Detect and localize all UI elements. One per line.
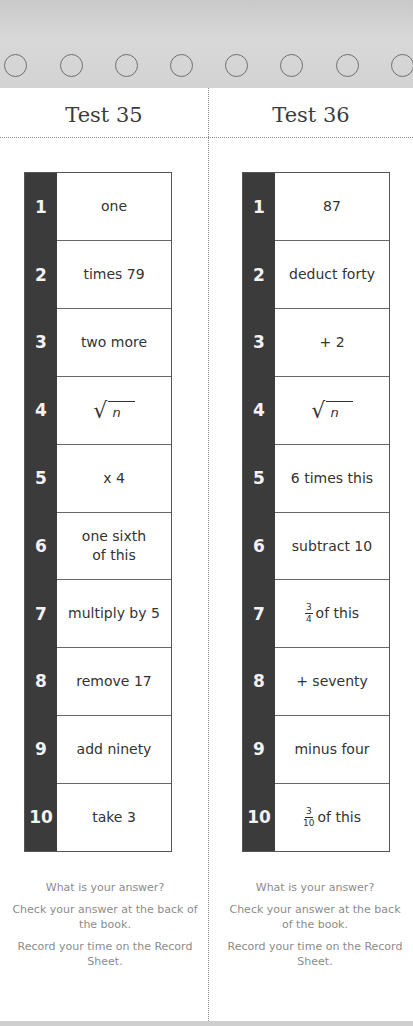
step-instruction-column: one times 79 two more √ n x 4 one sixth … bbox=[57, 173, 171, 851]
fraction-numerator: 3 bbox=[305, 807, 313, 818]
step-number: 3 bbox=[25, 309, 57, 377]
fraction-suffix: of this bbox=[317, 808, 361, 827]
step-number: 4 bbox=[243, 376, 275, 444]
step-instruction: subtract 10 bbox=[275, 512, 389, 580]
step-number: 1 bbox=[25, 173, 57, 241]
column-divider bbox=[208, 88, 209, 1021]
step-instruction: one bbox=[57, 173, 171, 240]
step-number: 4 bbox=[25, 376, 57, 444]
radicand: n bbox=[108, 401, 134, 422]
step-instruction: x 4 bbox=[57, 444, 171, 512]
step-instruction: add ninety bbox=[57, 715, 171, 783]
record-time-note: Record your time on the Record Sheet. bbox=[10, 939, 200, 969]
step-instruction: + 2 bbox=[275, 308, 389, 376]
punch-hole-icon bbox=[170, 54, 193, 77]
step-number: 10 bbox=[243, 783, 275, 851]
radical-sign-icon: √ bbox=[311, 400, 325, 422]
step-number: 5 bbox=[25, 444, 57, 512]
answer-prompt: What is your answer? bbox=[10, 880, 200, 895]
punch-hole-icon bbox=[60, 54, 83, 77]
step-number: 8 bbox=[25, 648, 57, 716]
step-instruction-line: of this bbox=[82, 546, 146, 565]
step-number: 6 bbox=[243, 512, 275, 580]
punch-hole-icon bbox=[4, 54, 27, 77]
test-35-footer: What is your answer? Check your answer a… bbox=[10, 880, 200, 976]
square-root-expression: √ n bbox=[93, 398, 134, 422]
step-instruction: multiply by 5 bbox=[57, 579, 171, 647]
step-instruction-line: one sixth bbox=[82, 527, 146, 546]
fraction: 3 4 bbox=[305, 603, 313, 624]
fraction-numerator: 3 bbox=[305, 603, 313, 614]
test-36-card: 1 2 3 4 5 6 7 8 9 10 87 deduct forty + 2… bbox=[242, 172, 390, 852]
step-number: 2 bbox=[25, 241, 57, 309]
step-instruction: times 79 bbox=[57, 240, 171, 308]
step-instruction: + seventy bbox=[275, 647, 389, 715]
step-number: 6 bbox=[25, 512, 57, 580]
step-number: 9 bbox=[243, 715, 275, 783]
punch-hole-icon bbox=[115, 54, 138, 77]
punch-hole-icon bbox=[336, 54, 359, 77]
step-number: 8 bbox=[243, 648, 275, 716]
step-instruction: 3 4 of this bbox=[275, 579, 389, 647]
step-number: 3 bbox=[243, 309, 275, 377]
radical-sign-icon: √ bbox=[93, 400, 107, 422]
bottom-strip bbox=[0, 1021, 413, 1026]
step-number: 2 bbox=[243, 241, 275, 309]
test-35-card: 1 2 3 4 5 6 7 8 9 10 one times 79 two mo… bbox=[24, 172, 172, 852]
punch-hole-icon bbox=[391, 54, 413, 77]
step-instruction: deduct forty bbox=[275, 240, 389, 308]
check-answer-note: Check your answer at the back of the boo… bbox=[224, 902, 406, 932]
step-instruction: √ n bbox=[57, 376, 171, 444]
step-instruction: one sixth of this bbox=[57, 512, 171, 580]
binder-strip bbox=[0, 0, 413, 88]
step-instruction: 3 10 of this bbox=[275, 783, 389, 851]
test-36-footer: What is your answer? Check your answer a… bbox=[224, 880, 406, 976]
step-number: 1 bbox=[243, 173, 275, 241]
punch-hole-icon bbox=[280, 54, 303, 77]
step-instruction: 87 bbox=[275, 173, 389, 240]
step-number: 9 bbox=[25, 715, 57, 783]
test-36-title: Test 36 bbox=[209, 97, 413, 133]
fraction-suffix: of this bbox=[316, 604, 360, 623]
fraction-denominator: 10 bbox=[303, 818, 314, 828]
record-time-note: Record your time on the Record Sheet. bbox=[224, 939, 406, 969]
step-number: 7 bbox=[25, 580, 57, 648]
title-divider bbox=[0, 137, 413, 138]
step-instruction: two more bbox=[57, 308, 171, 376]
step-instruction: remove 17 bbox=[57, 647, 171, 715]
square-root-expression: √ n bbox=[311, 398, 352, 422]
test-35-title: Test 35 bbox=[0, 97, 208, 133]
step-instruction: 6 times this bbox=[275, 444, 389, 512]
step-instruction-column: 87 deduct forty + 2 √ n 6 times this sub… bbox=[275, 173, 389, 851]
fraction: 3 10 bbox=[303, 807, 314, 828]
step-number: 5 bbox=[243, 444, 275, 512]
step-number: 7 bbox=[243, 580, 275, 648]
answer-prompt: What is your answer? bbox=[224, 880, 406, 895]
step-instruction: take 3 bbox=[57, 783, 171, 851]
step-number-column: 1 2 3 4 5 6 7 8 9 10 bbox=[243, 173, 275, 851]
step-instruction: √ n bbox=[275, 376, 389, 444]
punch-hole-icon bbox=[225, 54, 248, 77]
radicand: n bbox=[326, 401, 352, 422]
step-number-column: 1 2 3 4 5 6 7 8 9 10 bbox=[25, 173, 57, 851]
step-number: 10 bbox=[25, 783, 57, 851]
step-instruction: minus four bbox=[275, 715, 389, 783]
fraction-denominator: 4 bbox=[306, 614, 312, 624]
check-answer-note: Check your answer at the back of the boo… bbox=[10, 902, 200, 932]
